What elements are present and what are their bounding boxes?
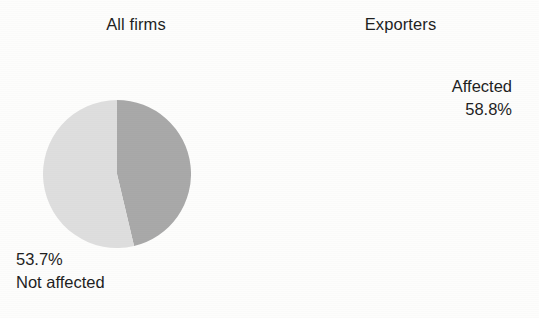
callout-affected-exporters: Affected 58.8% xyxy=(452,75,512,121)
chart-panel-all-firms: All firms Affected 46.3% 53.7% Not affec… xyxy=(0,0,270,318)
callout-affected-value-exporters: 58.8% xyxy=(452,98,512,121)
callout-not-affected-all-firms: 53.7% Not affected xyxy=(16,248,105,294)
pie-chart-figure: All firms Affected 46.3% 53.7% Not affec… xyxy=(0,0,539,318)
pie-chart-all-firms xyxy=(43,100,191,248)
pie-svg-all-firms xyxy=(43,100,191,248)
callout-not-affected-value-all-firms: 53.7% xyxy=(16,248,105,271)
callout-not-affected-label-all-firms: Not affected xyxy=(16,271,105,294)
chart-title-exporters: Exporters xyxy=(266,15,535,34)
callout-affected-label-exporters: Affected xyxy=(452,75,512,98)
chart-panel-exporters: Exporters Affected 58.8% 41.2% Not affec… xyxy=(270,0,539,318)
chart-title-all-firms: All firms xyxy=(1,15,271,34)
